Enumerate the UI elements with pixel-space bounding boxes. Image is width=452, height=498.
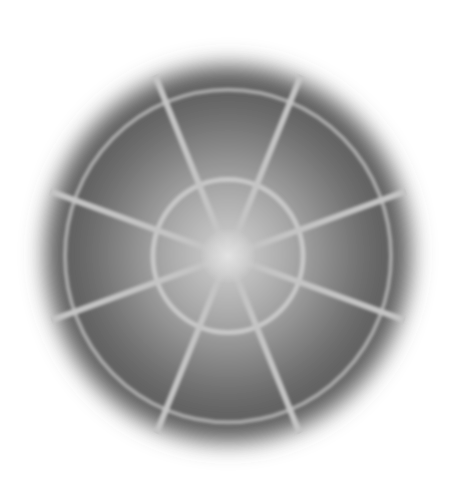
center-glow bbox=[200, 228, 256, 284]
radial-web-disk: Blurred grayscale disk with radial spoke… bbox=[0, 0, 452, 498]
disk-graphic bbox=[0, 0, 452, 498]
